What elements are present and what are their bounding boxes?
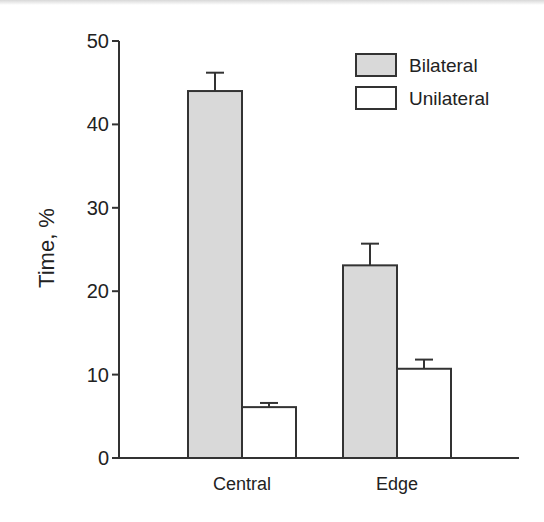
- y-tick-label: 30: [87, 197, 109, 219]
- bar-unilateral-edge: [397, 369, 451, 458]
- bar-bilateral-central: [188, 91, 242, 458]
- legend: BilateralUnilateral: [356, 54, 489, 109]
- y-tick-label: 0: [98, 447, 109, 469]
- bar-unilateral-central: [242, 407, 296, 458]
- y-tick-label: 10: [87, 364, 109, 386]
- bar-bilateral-edge: [343, 265, 397, 458]
- x-tick-label: Edge: [376, 474, 418, 494]
- y-axis-label: Time, %: [34, 208, 59, 288]
- x-tick-label: Central: [213, 474, 271, 494]
- x-axis: CentralEdge: [118, 458, 519, 494]
- bar-chart: 01020304050 CentralEdge BilateralUnilate…: [0, 0, 544, 522]
- y-axis: 01020304050: [87, 30, 119, 469]
- y-tick-label: 20: [87, 280, 109, 302]
- legend-label: Bilateral: [409, 55, 478, 76]
- y-tick-label: 50: [87, 30, 109, 52]
- legend-swatch: [356, 54, 396, 76]
- bars: [188, 73, 451, 458]
- legend-swatch: [356, 87, 396, 109]
- y-tick-label: 40: [87, 113, 109, 135]
- legend-label: Unilateral: [409, 88, 489, 109]
